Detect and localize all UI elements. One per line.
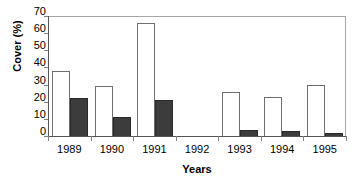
x-tick-mark-5: [261, 136, 262, 141]
bar-open-bar-1990: [95, 86, 113, 136]
chart-figure: Cover (%) 010203040506070 19891990199119…: [0, 0, 354, 192]
bar-filled-bar-1989: [70, 98, 88, 136]
y-tick-mark-60: [44, 33, 48, 34]
y-tick-mark-40: [44, 67, 48, 68]
y-tick-mark-0: [44, 136, 48, 137]
x-tick-label-1992: 1992: [176, 143, 219, 155]
bar-filled-bar-1991: [155, 100, 173, 136]
x-tick-label-1993: 1993: [218, 143, 261, 155]
y-tick-label-20: 20: [22, 92, 46, 102]
y-tick-mark-70: [44, 16, 48, 17]
bar-group-1990: [91, 16, 133, 136]
x-axis-title: Years: [48, 163, 346, 175]
x-tick-mark-6: [303, 136, 304, 141]
bar-group-1993: [219, 16, 261, 136]
bar-group-1995: [304, 16, 346, 136]
x-tick-label-1995: 1995: [303, 143, 346, 155]
bar-open-bar-1994: [264, 97, 282, 136]
bar-group-1991: [134, 16, 176, 136]
y-tick-label-40: 40: [22, 57, 46, 67]
bar-group-1992: [176, 16, 218, 136]
y-tick-label-10: 10: [22, 109, 46, 119]
y-tick-mark-10: [44, 119, 48, 120]
bar-open-bar-1991: [137, 23, 155, 136]
bar-open-bar-1989: [52, 71, 70, 136]
x-tick-mark-3: [176, 136, 177, 141]
x-axis-tick-labels: 1989199019911992199319941995: [48, 143, 346, 155]
x-tick-label-1991: 1991: [133, 143, 176, 155]
x-tick-label-1989: 1989: [48, 143, 91, 155]
bar-group-1994: [261, 16, 303, 136]
bar-group-1989: [49, 16, 91, 136]
y-tick-label-50: 50: [22, 40, 46, 50]
x-tick-mark-7: [346, 136, 347, 141]
y-axis-tick-labels: 010203040506070: [22, 11, 46, 137]
x-tick-label-1994: 1994: [261, 143, 304, 155]
y-tick-label-30: 30: [22, 75, 46, 85]
y-tick-mark-50: [44, 50, 48, 51]
x-tick-label-1990: 1990: [91, 143, 134, 155]
x-tick-mark-4: [218, 136, 219, 141]
x-tick-mark-2: [133, 136, 134, 141]
bar-open-bar-1995: [307, 85, 325, 136]
bar-open-bar-1993: [222, 92, 240, 136]
y-tick-label-70: 70: [22, 6, 46, 16]
x-tick-mark-1: [91, 136, 92, 141]
y-tick-label-60: 60: [22, 23, 46, 33]
y-tick-label-0: 0: [22, 126, 46, 136]
bar-groups: [49, 16, 346, 136]
y-tick-mark-30: [44, 85, 48, 86]
bar-filled-bar-1990: [113, 117, 131, 136]
y-tick-mark-20: [44, 102, 48, 103]
x-tick-mark-0: [48, 136, 49, 141]
x-axis-tick-marks: [48, 136, 346, 142]
